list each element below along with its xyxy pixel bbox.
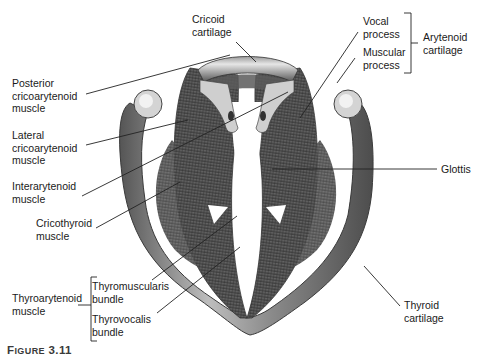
label-interarytenoid-muscle: Interarytenoid muscle xyxy=(12,180,76,205)
label-muscular-process: Muscular process xyxy=(363,46,406,71)
label-glottis: Glottis xyxy=(441,163,471,176)
label-lateral-cricoarytenoid-muscle: Lateral cricoarytenoid muscle xyxy=(12,129,77,167)
label-posterior-cricoarytenoid-muscle: Posterior cricoarytenoid muscle xyxy=(12,77,77,115)
label-thyroarytenoid-muscle: Thyroarytenoid muscle xyxy=(12,292,82,317)
label-vocal-process: Vocal process xyxy=(363,15,400,40)
label-arytenoid-cartilage: Arytenoid cartilage xyxy=(423,31,467,56)
label-cricothyroid-muscle: Cricothyroid muscle xyxy=(36,217,92,242)
figure-caption-word: IGURE xyxy=(14,346,45,356)
figure-caption-number: 3.11 xyxy=(49,344,72,356)
label-cricoid-cartilage: Cricoid cartilage xyxy=(192,13,232,38)
label-thyromuscularis-bundle: Thyromuscularis bundle xyxy=(92,280,169,305)
label-thyrovocalis-bundle: Thyrovocalis bundle xyxy=(92,313,151,338)
label-thyroid-cartilage: Thyroid cartilage xyxy=(404,299,444,324)
figure-caption: FIGURE 3.11 xyxy=(7,344,72,356)
